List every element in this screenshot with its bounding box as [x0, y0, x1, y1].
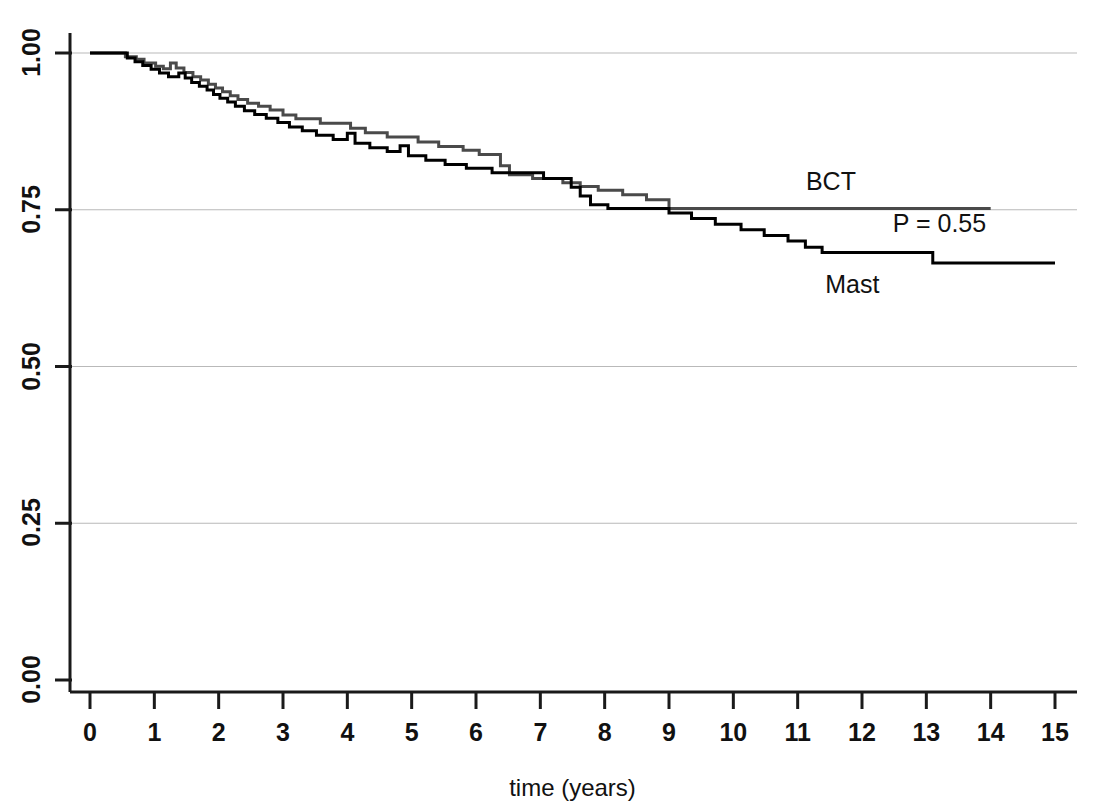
x-tick-label: 14	[961, 720, 1021, 745]
x-tick-label: 11	[768, 720, 828, 745]
axis-lines	[70, 33, 1077, 692]
x-tick-label: 9	[639, 720, 699, 745]
x-tick-label: 1	[124, 720, 184, 745]
bct-label: BCT	[806, 169, 856, 194]
x-tick-label: 8	[575, 720, 635, 745]
y-tick-label: 0.75	[19, 174, 44, 244]
x-tick-label: 12	[832, 720, 892, 745]
x-tick-label: 10	[703, 720, 763, 745]
x-tick-label: 5	[382, 720, 442, 745]
x-tick-label: 7	[510, 720, 570, 745]
axis-ticks	[55, 53, 1055, 709]
x-tick-label: 6	[446, 720, 506, 745]
x-axis-title: time (years)	[373, 776, 773, 800]
y-tick-label: 0.00	[19, 645, 44, 715]
x-tick-label: 15	[1025, 720, 1085, 745]
x-tick-label: 4	[317, 720, 377, 745]
pvalue-label: P = 0.55	[893, 211, 986, 236]
y-tick-label: 1.00	[19, 18, 44, 88]
plot-area	[0, 0, 1105, 804]
x-tick-label: 3	[253, 720, 313, 745]
mast-label: Mast	[825, 272, 879, 297]
y-tick-label: 0.25	[19, 488, 44, 558]
y-tick-label: 0.50	[19, 331, 44, 401]
x-tick-label: 0	[60, 720, 120, 745]
kaplan-meier-chart: 0.000.250.500.751.00 0123456789101112131…	[0, 0, 1105, 804]
gridlines	[70, 53, 1077, 523]
x-tick-label: 13	[896, 720, 956, 745]
x-tick-label: 2	[189, 720, 249, 745]
